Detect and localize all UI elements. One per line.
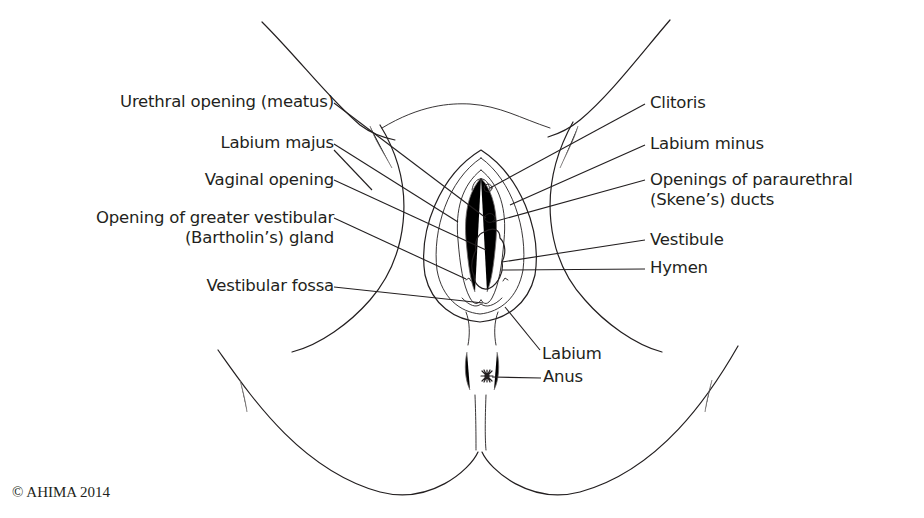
- illustration: [0, 0, 924, 518]
- leader-greater-vestibular-gland: [334, 218, 466, 279]
- anus-mark: [481, 370, 493, 382]
- label-paraurethral-ducts: Openings of paraurethral (Skene’s) ducts: [650, 170, 853, 210]
- right-buttock: [482, 346, 738, 495]
- label-clitoris: Clitoris: [650, 93, 706, 113]
- label-greater-vestibular-gland-line1: Opening of greater vestibular: [96, 208, 334, 228]
- copyright-notice: © AHIMA 2014: [12, 484, 110, 501]
- leader-clitoris: [490, 104, 645, 188]
- perineum-left: [466, 312, 469, 345]
- label-greater-vestibular-gland: Opening of greater vestibular (Bartholin…: [96, 208, 334, 248]
- leader-labium-minus: [510, 145, 645, 205]
- right-thigh-crease: [560, 126, 578, 168]
- leader-urethral-opening: [334, 103, 486, 218]
- bartholin-left: [466, 278, 471, 281]
- label-urethral-opening: Urethral opening (meatus): [120, 92, 334, 112]
- label-paraurethral-ducts-line1: Openings of paraurethral: [650, 170, 853, 190]
- anatomy-diagram: Urethral opening (meatus) Labium majus V…: [0, 0, 924, 518]
- perineum-right: [495, 312, 498, 345]
- gluteal-cleft: [475, 395, 486, 450]
- label-greater-vestibular-gland-line2: (Bartholin’s) gland: [96, 228, 334, 248]
- label-vestibular-fossa: Vestibular fossa: [207, 276, 334, 296]
- label-vestibule: Vestibule: [650, 230, 724, 250]
- label-hymen: Hymen: [650, 258, 708, 278]
- labia-minora-right-2: [481, 178, 496, 292]
- label-paraurethral-ducts-line2: (Skene’s) ducts: [650, 190, 853, 210]
- label-anus: Anus: [543, 367, 583, 387]
- leader-vaginal-opening: [334, 180, 486, 250]
- leader-anus: [492, 377, 541, 378]
- left-groin-line: [262, 22, 395, 140]
- perineum-lower-left: [465, 352, 470, 390]
- perineum-lower-right: [494, 352, 499, 390]
- right-groin-line: [548, 20, 670, 137]
- label-labium-minus: Labium minus: [650, 134, 764, 154]
- left-buttock: [218, 350, 478, 495]
- bartholin-right: [503, 278, 508, 281]
- label-vaginal-opening: Vaginal opening: [205, 170, 334, 190]
- right-inner-thigh-arc: [550, 122, 662, 352]
- labia-majora-outline: [424, 150, 537, 322]
- label-labium-majus: Labium majus: [220, 133, 334, 153]
- label-labium: Labium: [542, 344, 602, 364]
- mons-pubis-curve: [382, 104, 550, 128]
- leader-vestibular-fossa: [334, 287, 483, 303]
- leader-labium: [505, 307, 540, 350]
